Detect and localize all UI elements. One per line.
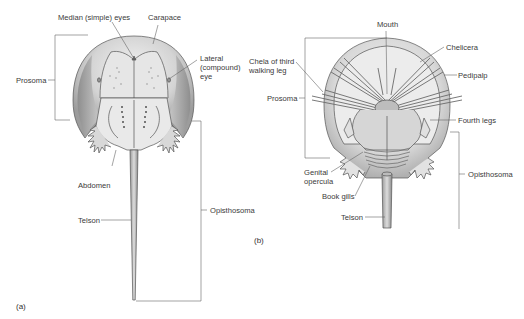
label-book-gills: Book gills <box>322 192 355 201</box>
label-opisthosoma-a: Opisthosoma <box>210 206 255 215</box>
label-carapace: Carapace <box>148 13 181 22</box>
label-telson-b: Telson <box>341 213 363 222</box>
label-genital-opercula: Genital opercula <box>304 168 333 186</box>
label-prosoma-b: Prosoma <box>267 94 297 103</box>
dorsal-crab <box>73 36 194 300</box>
label-fourth-legs: Fourth legs <box>458 116 496 125</box>
label-chelicera: Chelicera <box>446 43 478 52</box>
label-median-eyes: Median (simple) eyes <box>58 13 130 22</box>
label-chela-third-leg: Chela of third walking leg <box>249 57 294 75</box>
horseshoe-crab-figure: Median (simple) eyes Carapace Lateral (c… <box>0 0 524 319</box>
panel-tag-b: (b) <box>254 236 264 245</box>
label-pedipalp: Pedipalp <box>458 71 488 80</box>
label-prosoma-a: Prosoma <box>16 76 46 85</box>
label-abdomen: Abdomen <box>78 181 111 190</box>
label-telson-a: Telson <box>78 216 100 225</box>
panel-tag-a: (a) <box>16 302 26 311</box>
label-opisthosoma-b: Opisthosoma <box>468 170 513 179</box>
label-mouth: Mouth <box>377 20 398 29</box>
label-lateral-eye: Lateral (compound) eye <box>200 54 241 81</box>
